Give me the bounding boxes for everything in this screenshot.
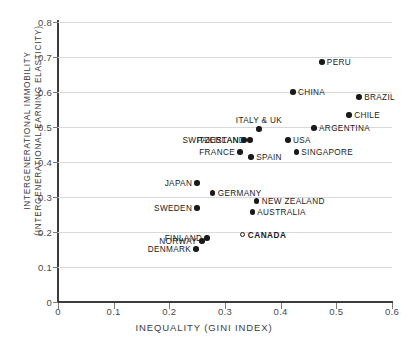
y-axis-title-line-2: (INTERGENERATIONAL EARNING ELASTICITY): [33, 0, 44, 266]
data-point-label: NEW ZEALAND: [262, 196, 325, 205]
data-point-label: GERMANY: [218, 189, 262, 198]
data-point-label: CHILE: [354, 111, 380, 120]
data-point-label: SPAIN: [256, 153, 282, 162]
data-point: [199, 238, 204, 243]
data-point: [290, 89, 295, 94]
data-point-label: USA: [293, 135, 311, 144]
y-tick-mark: [53, 57, 58, 58]
y-tick-label: 0: [46, 297, 52, 308]
data-point-label: ARGENTINA: [319, 124, 370, 133]
data-point: [256, 126, 261, 131]
x-tick-label: 0.6: [385, 306, 399, 317]
data-point-label: SWEDEN: [154, 203, 192, 212]
data-point: [319, 59, 324, 64]
scatter-chart: PERUCHINABRAZILCHILEARGENTINAITALY & UKP…: [0, 0, 408, 344]
y-tick-mark: [53, 267, 58, 268]
y-tick-mark: [53, 22, 58, 23]
x-tick-label: 0.1: [107, 306, 121, 317]
data-point: [194, 180, 199, 185]
data-point: [311, 125, 316, 130]
x-tick-label: 0.5: [329, 306, 343, 317]
y-tick-mark: [53, 127, 58, 128]
x-axis-title: INEQUALITY (GINI INDEX): [0, 322, 408, 333]
data-point-label: PERU: [327, 57, 351, 66]
data-point-label: CHINA: [298, 88, 325, 97]
gridline: [58, 92, 392, 93]
data-point: [247, 137, 252, 142]
y-tick-mark: [53, 232, 58, 233]
y-axis-title-line-1: INTERGENERATIONAL IMMOBILITY: [23, 0, 34, 266]
x-tick-label: 0.2: [162, 306, 176, 317]
data-point-label: CANADA: [248, 231, 286, 240]
data-point: [285, 137, 290, 142]
data-point-label: JAPAN: [165, 179, 193, 188]
x-tick-label: 0: [55, 306, 61, 317]
data-point: [356, 94, 361, 99]
y-tick-mark: [53, 162, 58, 163]
gridline: [58, 267, 392, 268]
data-point: [194, 205, 199, 210]
y-tick-mark: [53, 197, 58, 198]
data-point-label: SINGAPORE: [301, 147, 353, 156]
data-point: [210, 190, 215, 195]
y-axis-title: INTERGENERATIONAL IMMOBILITY (INTERGENER…: [23, 0, 44, 266]
x-tick-label: 0.4: [274, 306, 288, 317]
data-point: [248, 154, 253, 159]
data-point: [254, 198, 259, 203]
data-point-label: FRANCE: [199, 147, 235, 156]
data-point: [294, 149, 299, 154]
data-point: [237, 149, 242, 154]
gridline: [58, 162, 392, 163]
data-point: [240, 232, 245, 237]
plot-area: PERUCHINABRAZILCHILEARGENTINAITALY & UKP…: [58, 22, 392, 302]
data-point-label: ITALY & UK: [236, 116, 282, 125]
gridline: [58, 232, 392, 233]
data-point-label: BRAZIL: [364, 92, 395, 101]
data-point-label: DENMARK: [148, 245, 191, 254]
data-point: [346, 112, 351, 117]
data-point: [193, 246, 198, 251]
data-point: [204, 235, 209, 240]
data-point: [250, 209, 255, 214]
data-point-label: SWITZERLAND: [183, 135, 246, 144]
data-point-label: AUSTRALIA: [257, 208, 306, 217]
y-tick-mark: [53, 92, 58, 93]
x-tick-label: 0.3: [218, 306, 232, 317]
gridline: [58, 22, 392, 23]
